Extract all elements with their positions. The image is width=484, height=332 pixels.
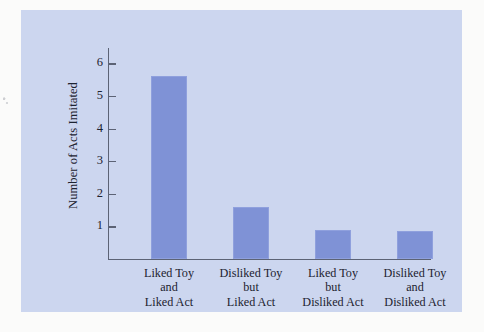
x-axis-category-label: Liked Toy but Disliked Act (292, 266, 374, 309)
y-axis-tick-label: 2 (83, 186, 103, 201)
y-axis-tick (109, 194, 116, 195)
scan-artifact (2, 94, 9, 106)
y-axis-title: Number of Acts Imitated (66, 56, 81, 236)
y-axis-tick-label: 3 (83, 153, 103, 168)
y-axis-tick (109, 226, 116, 227)
y-axis-tick-label: 5 (83, 88, 103, 103)
y-axis-tick (109, 161, 116, 162)
bar (397, 231, 433, 259)
x-axis-category-label: Disliked Toy and Disliked Act (374, 266, 456, 309)
x-axis-category-label: Liked Toy and Liked Act (128, 266, 210, 309)
x-axis-category-label: Disliked Toy but Liked Act (210, 266, 292, 309)
y-axis-tick (109, 129, 116, 130)
x-axis-line (108, 259, 431, 260)
bar (151, 76, 187, 259)
plot-area: Number of Acts Imitated 123456 Liked Toy… (21, 10, 462, 312)
chart-panel: Number of Acts Imitated 123456 Liked Toy… (21, 10, 462, 312)
y-axis-tick-label: 1 (83, 218, 103, 233)
y-axis-tick-label: 4 (83, 121, 103, 136)
y-axis-tick (109, 96, 116, 97)
bar (233, 207, 269, 259)
bar (315, 230, 351, 259)
y-axis-tick (109, 63, 116, 64)
y-axis-tick-label: 6 (83, 55, 103, 70)
y-axis-line (108, 48, 109, 260)
